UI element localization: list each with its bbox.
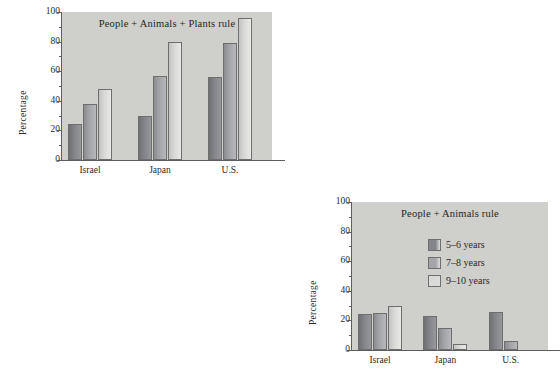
legend-label: 9–10 years xyxy=(446,275,490,286)
legend-swatch xyxy=(428,257,441,269)
x-tick-label: U.S. xyxy=(194,165,266,175)
plot-area-0 xyxy=(62,12,272,160)
x-tick-label: Japan xyxy=(409,355,481,365)
bar xyxy=(438,328,452,350)
legend-label: 7–8 years xyxy=(446,257,485,268)
legend-item: 9–10 years xyxy=(428,273,490,288)
bar xyxy=(83,104,97,160)
bar xyxy=(373,313,387,350)
bar xyxy=(208,77,222,160)
legend-item: 5–6 years xyxy=(428,237,490,252)
legend: 5–6 years7–8 years9–10 years xyxy=(428,237,490,291)
bar xyxy=(423,316,437,350)
x-tick-label: Japan xyxy=(124,165,196,175)
x-tick-label: Israel xyxy=(54,165,126,175)
bar xyxy=(223,43,237,160)
legend-label: 5–6 years xyxy=(446,239,485,250)
y-axis-ticks-0: 020406080100 xyxy=(0,12,60,160)
bar xyxy=(238,18,252,160)
x-axis-line xyxy=(61,160,285,161)
bar xyxy=(98,89,112,160)
chart-title-1: People + Animals rule xyxy=(352,208,548,219)
chart-panel-people-animals: Percentage 020406080100 People + Animals… xyxy=(290,190,560,373)
bar xyxy=(168,42,182,160)
y-axis-ticks-1: 020406080100 xyxy=(290,202,350,350)
x-axis-line xyxy=(351,350,560,351)
legend-swatch xyxy=(428,275,441,287)
figure-root: { "figure": { "ylabel": "Percentage", "y… xyxy=(0,0,560,373)
bar xyxy=(358,314,372,350)
legend-swatch xyxy=(428,239,441,251)
bar xyxy=(489,312,503,350)
bar xyxy=(388,306,402,350)
bar xyxy=(153,76,167,160)
bar xyxy=(68,124,82,160)
legend-item: 7–8 years xyxy=(428,255,490,270)
x-tick-label: Israel xyxy=(344,355,416,365)
y-axis-line xyxy=(61,12,62,160)
chart-title-0: People + Animals + Plants rule xyxy=(62,18,272,29)
chart-panel-people-animals-plants: Percentage 020406080100 People + Animals… xyxy=(0,0,290,190)
bar xyxy=(504,341,518,350)
bar xyxy=(138,116,152,160)
x-tick-label: U.S. xyxy=(475,355,547,365)
y-axis-line xyxy=(351,202,352,350)
